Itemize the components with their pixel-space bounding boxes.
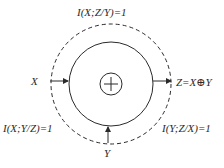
- xor-diagram: I(X;Z/Y)=1 X Z=X⊕Y I(X;Y/Z)=1 I(Y;Z/X)=1…: [0, 0, 224, 168]
- bottom-left-label: I(X;Y/Z)=1: [2, 122, 53, 135]
- top-label: I(X;Z/Y)=1: [76, 6, 127, 19]
- y-label: Y: [104, 147, 112, 159]
- output-label: Z=X⊕Y: [176, 76, 213, 88]
- xor-icon: [100, 73, 122, 95]
- bottom-right-label: I(Y;Z/X)=1: [161, 122, 211, 135]
- x-label: X: [30, 75, 39, 87]
